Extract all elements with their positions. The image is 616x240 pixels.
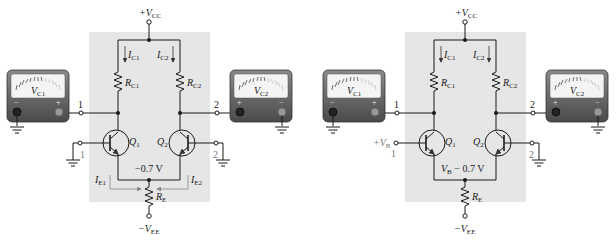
output-2-terminal (531, 111, 535, 115)
svg-text:+: + (372, 98, 377, 107)
input-2-terminal (214, 141, 218, 145)
panel-b: +VCC IC1 IC2 RC1 RC2 1 2 Q1 (323, 7, 608, 236)
ground-icon (66, 160, 80, 166)
svg-text:+: + (237, 98, 242, 107)
output-2-label: 2 (214, 99, 219, 110)
input-1-terminal (78, 141, 82, 145)
svg-text:+: + (553, 98, 558, 107)
output-1-terminal (79, 111, 83, 115)
differential-amplifier-diagram: +VCC IC1 IC2 RC1 RC2 1 2 (0, 0, 616, 240)
ground-icon (591, 127, 605, 133)
vcc-terminal (463, 20, 467, 24)
vcc-label: +VCC (455, 7, 478, 20)
vee-label: −VEE (138, 223, 159, 236)
vcc-label: +VCC (139, 7, 162, 20)
vee-terminal (463, 214, 467, 218)
input-2-terminal (530, 141, 534, 145)
output-1-label: 1 (394, 99, 399, 110)
vee-label: −VEE (454, 223, 475, 236)
ground-icon (532, 160, 546, 166)
output-2-terminal (215, 111, 219, 115)
svg-text:−: − (14, 98, 19, 107)
output-1-label: 1 (78, 99, 83, 110)
input-2-label: 2 (213, 149, 218, 160)
ground-icon (326, 127, 340, 133)
input-1-terminal (394, 141, 398, 145)
output-2-label: 2 (530, 99, 535, 110)
voltmeter-vc1: VC1 − + (7, 70, 69, 122)
output-1-terminal (395, 111, 399, 115)
ground-icon (275, 127, 289, 133)
ground-icon (216, 160, 230, 166)
svg-text:−: − (330, 98, 335, 107)
emitter-voltage-label: −0.7 V (135, 163, 163, 174)
voltmeter-vc2: VC2 + − (546, 70, 608, 122)
svg-text:−: − (279, 98, 284, 107)
input-2-label: 2 (529, 149, 534, 160)
ground-icon (10, 127, 24, 133)
input-vb-label: +VB (373, 137, 391, 150)
panel-b-background (405, 32, 526, 202)
voltmeter-vc1: VC1 − + (323, 70, 385, 122)
vcc-node (147, 38, 151, 42)
voltmeter-vc2: VC2 + − (230, 70, 292, 122)
vcc-terminal (147, 20, 151, 24)
panel-a: +VCC IC1 IC2 RC1 RC2 1 2 (7, 7, 292, 236)
vee-terminal (147, 214, 151, 218)
input-1-label: 1 (80, 149, 85, 160)
svg-text:−: − (595, 98, 600, 107)
svg-text:+: + (56, 98, 61, 107)
input-1-label: 1 (391, 148, 396, 159)
